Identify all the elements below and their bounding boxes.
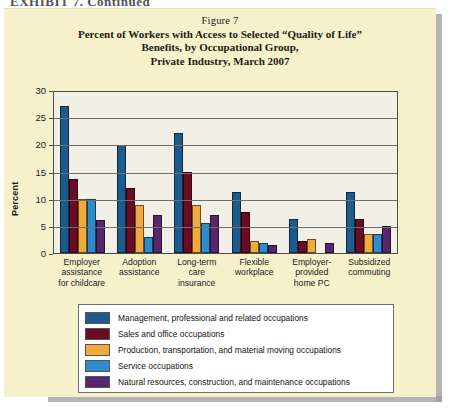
legend-item-3: Production, transportation, and material… bbox=[85, 342, 387, 358]
bar bbox=[364, 234, 373, 253]
y-axis-tickmark bbox=[49, 118, 53, 119]
bar bbox=[69, 179, 78, 253]
x-axis-label-line: insurance bbox=[168, 278, 226, 288]
gridline bbox=[54, 200, 397, 201]
figure-number: Figure 7 bbox=[4, 9, 436, 26]
bar bbox=[241, 212, 250, 253]
legend-swatch-icon bbox=[85, 344, 110, 356]
gridline bbox=[54, 227, 397, 228]
x-axis-label-line: Employer- bbox=[283, 257, 341, 267]
bar bbox=[355, 219, 364, 253]
legend-label: Service occupations bbox=[118, 361, 193, 371]
x-axis-label-line: home PC bbox=[283, 278, 341, 288]
bar bbox=[144, 237, 153, 253]
bar bbox=[382, 226, 391, 253]
bar bbox=[250, 241, 259, 253]
bar bbox=[183, 172, 192, 254]
legend-item-4: Service occupations bbox=[85, 358, 387, 374]
x-axis-label-line: Flexible bbox=[226, 257, 284, 267]
bar bbox=[96, 220, 105, 253]
bar bbox=[153, 215, 162, 253]
figure-page: EXHIBIT 7. Continued Figure 7 Percent of… bbox=[0, 0, 450, 418]
y-axis-tick-0: 0 bbox=[4, 248, 46, 259]
x-axis-label-line: care bbox=[168, 267, 226, 277]
x-axis-category-labels: Employerassistancefor childcareAdoptiona… bbox=[53, 257, 398, 288]
x-axis-label-line: Long-term bbox=[168, 257, 226, 267]
bar bbox=[210, 215, 219, 253]
figure-title-line-3: Private Industry, March 2007 bbox=[4, 55, 436, 68]
legend-label: Production, transportation, and material… bbox=[118, 345, 341, 355]
legend-item-2: Sales and office occupations bbox=[85, 326, 387, 342]
bar-chart: Percent 051015202530 Employerassistancef… bbox=[4, 88, 436, 263]
y-axis-tick-20: 20 bbox=[4, 139, 46, 150]
plot-area bbox=[53, 91, 398, 254]
legend-label: Sales and office occupations bbox=[118, 329, 224, 339]
legend-label: Natural resources, construction, and mai… bbox=[118, 377, 350, 387]
legend-label: Management, professional and related occ… bbox=[118, 313, 308, 323]
x-axis-label-line: workplace bbox=[226, 267, 284, 277]
bar bbox=[192, 205, 201, 253]
legend-swatch-icon bbox=[85, 312, 110, 324]
legend-item-1: Management, professional and related occ… bbox=[85, 310, 387, 326]
chart-legend: Management, professional and related occ… bbox=[78, 304, 394, 393]
y-axis-tickmark bbox=[49, 145, 53, 146]
x-axis-label-line: provided bbox=[283, 267, 341, 277]
legend-swatch-icon bbox=[85, 376, 110, 388]
y-axis-tick-30: 30 bbox=[4, 85, 46, 96]
bar bbox=[259, 243, 268, 253]
y-axis-tickmark bbox=[49, 227, 53, 228]
x-axis-label-5: Employer-providedhome PC bbox=[283, 257, 341, 288]
x-axis-label-line: assistance bbox=[111, 267, 169, 277]
bar bbox=[78, 199, 87, 253]
x-axis-label-line: Subsidized bbox=[341, 257, 399, 267]
legend-swatch-icon bbox=[85, 360, 110, 372]
x-axis-label-2: Adoptionassistance bbox=[111, 257, 169, 288]
bar bbox=[307, 239, 316, 253]
bar bbox=[87, 199, 96, 253]
x-axis-label-line: commuting bbox=[341, 267, 399, 277]
gridline bbox=[54, 145, 397, 146]
y-axis-tickmark bbox=[49, 91, 53, 92]
gridline bbox=[54, 173, 397, 174]
figure-title: Percent of Workers with Access to Select… bbox=[4, 28, 436, 68]
bar bbox=[373, 234, 382, 253]
bar bbox=[298, 241, 307, 253]
y-axis-tickmark bbox=[49, 254, 53, 255]
bar bbox=[325, 243, 334, 253]
x-axis-label-4: Flexibleworkplace bbox=[226, 257, 284, 288]
y-axis-tick-5: 5 bbox=[4, 221, 46, 232]
bar bbox=[174, 133, 183, 253]
bar bbox=[126, 188, 135, 253]
x-axis-label-line: Adoption bbox=[111, 257, 169, 267]
legend-swatch-icon bbox=[85, 328, 110, 340]
legend-item-5: Natural resources, construction, and mai… bbox=[85, 374, 387, 390]
bar bbox=[135, 205, 144, 253]
x-axis-label-line: assistance bbox=[53, 267, 111, 277]
figure-panel: Figure 7 Percent of Workers with Access … bbox=[4, 8, 436, 397]
page-shadow-right bbox=[436, 14, 442, 402]
y-axis-tick-10: 10 bbox=[4, 194, 46, 205]
x-axis-label-3: Long-termcareinsurance bbox=[168, 257, 226, 288]
x-axis-label-6: Subsidizedcommuting bbox=[341, 257, 399, 288]
figure-title-line-1: Percent of Workers with Access to Select… bbox=[4, 28, 436, 41]
x-axis-label-line: Employer bbox=[53, 257, 111, 267]
x-axis-label-line: for childcare bbox=[53, 278, 111, 288]
bar bbox=[268, 245, 277, 253]
y-axis-tick-15: 15 bbox=[4, 167, 46, 178]
figure-title-line-2: Benefits, by Occupational Group, bbox=[4, 41, 436, 54]
y-axis-tickmark bbox=[49, 173, 53, 174]
bar bbox=[289, 219, 298, 253]
gridline bbox=[54, 118, 397, 119]
y-axis-tickmark bbox=[49, 200, 53, 201]
y-axis-tick-25: 25 bbox=[4, 112, 46, 123]
bar bbox=[346, 192, 355, 253]
x-axis-label-1: Employerassistancefor childcare bbox=[53, 257, 111, 288]
bar bbox=[60, 106, 69, 253]
bar bbox=[232, 192, 241, 253]
